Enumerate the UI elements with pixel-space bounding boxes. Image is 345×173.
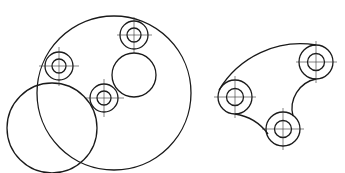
left-drawing	[7, 16, 191, 173]
hole-ring-left	[214, 76, 256, 118]
bottom-concave-arc	[235, 114, 268, 134]
hole-ring-right	[296, 41, 337, 83]
right-drawing	[214, 41, 337, 150]
outer-circle	[37, 16, 191, 170]
hole-ring-middle	[86, 79, 124, 117]
hole-ring-left	[39, 47, 79, 86]
hole-ring-bottom	[262, 108, 304, 150]
right-concave-arc	[292, 79, 316, 116]
top-convex-arc	[219, 44, 316, 90]
drawing-canvas	[0, 0, 345, 173]
inner-circle	[112, 53, 156, 97]
hole-ring-top	[117, 17, 152, 54]
overlap-circle	[7, 83, 97, 173]
